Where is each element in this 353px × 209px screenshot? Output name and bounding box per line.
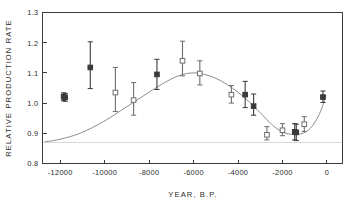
data-point bbox=[63, 93, 68, 101]
x-tick-label: -10000 bbox=[92, 168, 117, 177]
figure-background bbox=[0, 0, 353, 209]
marker-filled-square bbox=[63, 95, 68, 100]
marker-filled-square bbox=[294, 130, 299, 135]
y-tick-label: 1.3 bbox=[27, 8, 38, 17]
y-tick-label: 1.1 bbox=[27, 69, 38, 78]
marker-open-square bbox=[280, 128, 285, 133]
y-axis-title: RELATIVE PRODUCTION RATE bbox=[4, 19, 13, 157]
y-tick-label: 0.8 bbox=[27, 159, 38, 168]
x-tick-label: -2000 bbox=[272, 168, 292, 177]
x-tick-label: -4000 bbox=[228, 168, 248, 177]
relative-production-rate-scatter-plot: -12000-10000-8000-6000-4000-20000 0.80.9… bbox=[0, 0, 353, 209]
marker-filled-square bbox=[251, 104, 256, 109]
marker-open-square bbox=[198, 71, 203, 76]
marker-open-square bbox=[113, 90, 118, 95]
marker-filled-square bbox=[243, 92, 248, 97]
x-axis-title: YEAR, B.P. bbox=[168, 190, 217, 199]
marker-open-square bbox=[265, 133, 270, 138]
x-tick-label: -8000 bbox=[139, 168, 159, 177]
marker-open-square bbox=[229, 92, 234, 97]
chart-figure: -12000-10000-8000-6000-4000-20000 0.80.9… bbox=[0, 0, 353, 209]
marker-open-square bbox=[302, 122, 307, 127]
marker-filled-square bbox=[155, 72, 160, 77]
y-tick-label: 1.0 bbox=[27, 99, 38, 108]
x-tick-label: -6000 bbox=[183, 168, 203, 177]
marker-filled-square bbox=[88, 65, 93, 70]
y-tick-label: 1.2 bbox=[27, 39, 38, 48]
x-tick-label: 0 bbox=[325, 168, 329, 177]
marker-open-square bbox=[180, 59, 185, 64]
marker-open-square bbox=[131, 98, 136, 103]
marker-filled-square bbox=[321, 95, 326, 100]
x-tick-label: -12000 bbox=[48, 168, 73, 177]
y-tick-label: 0.9 bbox=[27, 129, 38, 138]
